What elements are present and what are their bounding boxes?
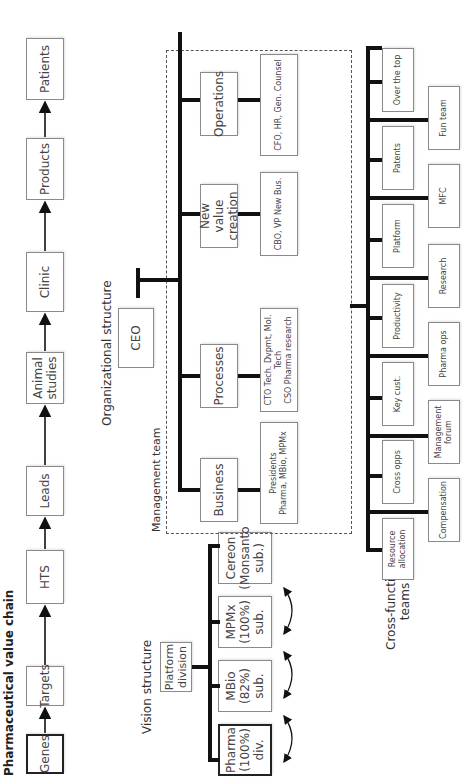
arrows-overlay xyxy=(0,0,476,778)
diagram-canvas: Pharmaceutical value chain Genes Targets… xyxy=(0,0,476,778)
vision-exchange-arrows xyxy=(284,588,292,762)
